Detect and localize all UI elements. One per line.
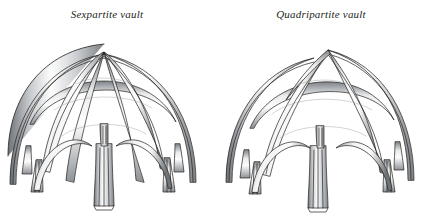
- caption-sexpartite: Sexpartite vault: [0, 8, 214, 21]
- sexpartite-vault-drawing: [0, 24, 214, 214]
- caption-quadripartite: Quadripartite vault: [214, 8, 428, 21]
- panel-sexpartite: Sexpartite vault: [0, 0, 214, 218]
- panel-quadripartite: Quadripartite vault: [214, 0, 428, 218]
- vault-comparison-figure: Sexpartite vault: [0, 0, 428, 218]
- quadripartite-vault-drawing: [214, 24, 428, 214]
